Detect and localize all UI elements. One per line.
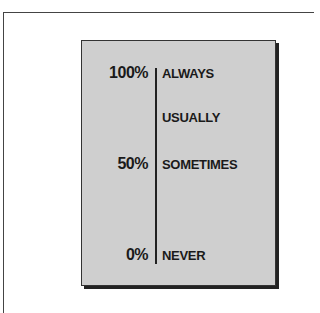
scale-label-usually: USUALLY — [162, 110, 220, 125]
scale-label-never: NEVER — [162, 248, 205, 263]
scale-label-always: ALWAYS — [162, 66, 214, 81]
scale-label-sometimes: SOMETIMES — [162, 157, 237, 172]
percent-label-100: 100% — [78, 64, 148, 82]
scale-axis-line — [155, 68, 157, 264]
percent-label-50: 50% — [78, 155, 148, 173]
percent-label-0: 0% — [78, 246, 148, 264]
